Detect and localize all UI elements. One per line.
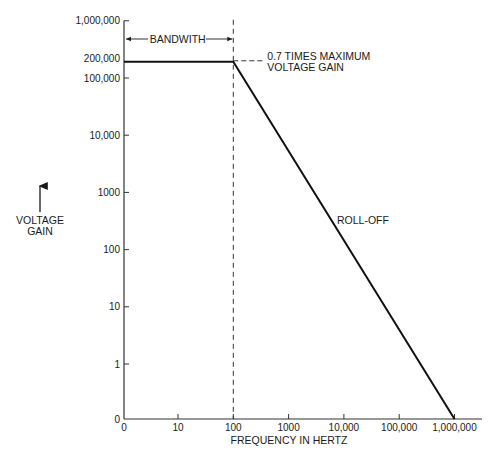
y-tick-label: 10,000 [89,130,120,141]
rolloff-label: ROLL-OFF [337,214,389,226]
x-tick-label: 1,000,000 [432,422,477,433]
x-ticks: 010100100010,000100,0001,000,000 [121,414,477,433]
series-group [124,62,455,419]
x-tick-label: 0 [121,422,127,433]
y-tick-label: 100,000 [84,73,121,84]
x-tick-label: 10 [172,422,184,433]
y-tick-label: 1,000,000 [76,15,121,26]
cutoff-label-line2: VOLTAGE GAIN [267,61,344,73]
y-tick-label: 1 [114,359,120,370]
y-tick-label: 1000 [98,187,121,198]
bandwidth-label: BANDWITH [150,33,206,45]
x-axis-title: FREQUENCY IN HERTZ [231,434,348,446]
x-tick-label: 100,000 [381,422,418,433]
y-tick-label-200000: 200,000 [84,53,121,64]
y-ticks: 0110100100010,000100,0001,000,000 [76,15,130,424]
x-tick-label: 100 [225,422,242,433]
y-tick-label: 100 [103,244,120,255]
y-tick-label: 10 [109,301,121,312]
y-axis-title-line2: GAIN [27,225,53,237]
x-tick-label: 1000 [277,422,300,433]
y-tick-label: 0 [114,414,120,425]
voltage-gain-chart: 0110100100010,000100,0001,000,000 010100… [0,0,496,461]
series-line [124,62,455,419]
x-tick-label: 10,000 [329,422,360,433]
